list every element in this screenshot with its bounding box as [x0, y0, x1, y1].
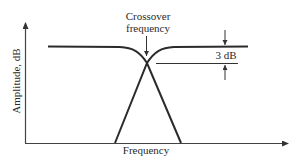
low-pass-curve — [48, 47, 181, 144]
y-axis-label: Amplitude, dB — [10, 48, 22, 113]
x-axis-label: Frequency — [123, 144, 170, 156]
crossover-diagram: Crossover frequency 3 dB Frequency Ampli… — [0, 0, 305, 163]
crossover-label-line1: Crossover — [126, 10, 171, 22]
crossover-label-line2: frequency — [126, 22, 170, 34]
attenuation-label: 3 dB — [215, 49, 236, 61]
